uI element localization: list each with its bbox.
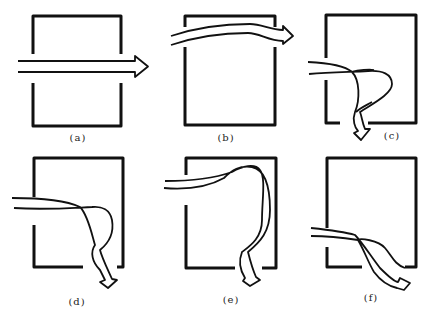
room-wall-a-lower [33, 83, 121, 126]
airflow-stream-c [308, 62, 392, 140]
room-wall-b [185, 47, 275, 125]
panel-label-b: (b) [217, 132, 234, 143]
airflow-diagram [0, 0, 430, 319]
room-wall-c-lower [326, 80, 340, 123]
room-wall-f [327, 158, 416, 267]
panel-d [12, 158, 123, 288]
panel-b [171, 16, 293, 125]
panel-label-c: (c) [384, 130, 400, 141]
panel-f [311, 158, 416, 290]
panel-label-e: (e) [223, 294, 240, 305]
panel-label-a: (a) [70, 132, 87, 143]
panel-label-f: (f) [364, 292, 379, 303]
airflow-arrow-a [18, 56, 148, 77]
airflow-arrow-b [171, 24, 293, 45]
room-wall-e-lower [186, 205, 235, 268]
panel-a [18, 16, 148, 126]
airflow-stream-d [12, 198, 117, 288]
room-wall-a [33, 16, 121, 54]
room-wall-f-lower [327, 247, 362, 267]
panel-c [308, 15, 416, 140]
room-wall-d-lower [34, 225, 83, 267]
panel-e [164, 158, 276, 286]
panel-label-d: (d) [68, 296, 85, 307]
